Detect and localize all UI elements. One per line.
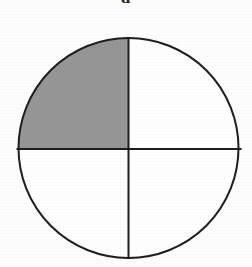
fraction-circle-figure: a bbox=[0, 0, 252, 267]
quartered-circle-diagram bbox=[0, 0, 252, 267]
shaded-quadrant-upper-left bbox=[19, 38, 129, 148]
